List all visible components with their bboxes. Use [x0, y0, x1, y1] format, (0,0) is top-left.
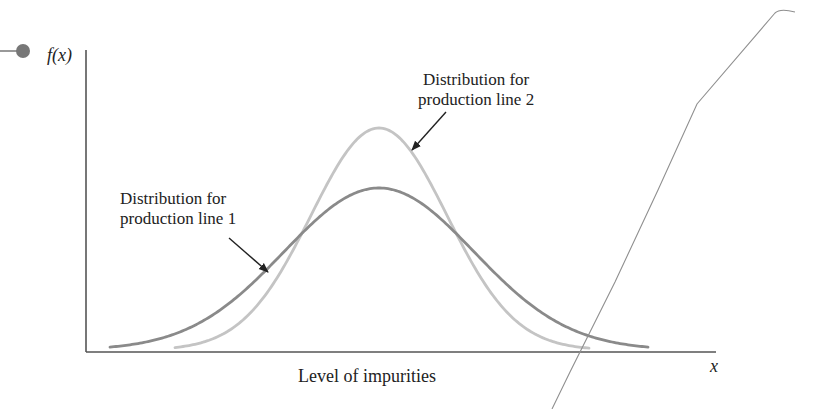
x-axis-label: Level of impurities [298, 366, 436, 387]
arrow-line-1 [229, 238, 268, 272]
annotation-line-2-title: Distribution for [423, 69, 529, 90]
annotation-line-2-subtitle: production line 2 [418, 89, 534, 110]
arrow-line-2 [412, 112, 446, 150]
curve-production-line-2 [175, 128, 589, 348]
annotation-line-1-subtitle: production line 1 [120, 208, 236, 229]
drag-handle-dot[interactable] [16, 44, 30, 58]
y-axis-label: f(x) [47, 45, 72, 66]
annotation-line-1-title: Distribution for [120, 188, 226, 209]
x-axis-symbol: x [710, 356, 718, 377]
